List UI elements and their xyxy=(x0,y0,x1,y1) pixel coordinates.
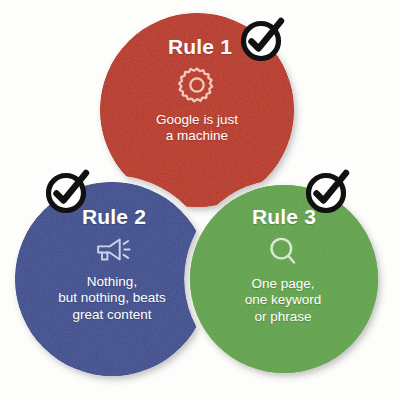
check-badge-rule-2 xyxy=(41,164,95,218)
check-badge-rule-1 xyxy=(236,12,290,66)
check-badge-rule-3 xyxy=(301,164,355,218)
three-rules-infographic: Rule 1 Google is just a machine Rule 2 xyxy=(0,0,400,400)
